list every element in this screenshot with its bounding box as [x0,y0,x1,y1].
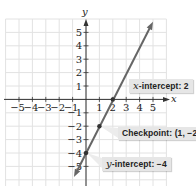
x-intercept-text: -intercept: 2 [139,81,189,91]
x-tick-label: 4 [136,102,142,113]
y-tick-label: 1 [76,81,82,92]
x-intercept-point [111,97,115,101]
y-tick-label: 4 [76,40,82,51]
y-tick-label: −1 [67,107,82,118]
x-tick-label: 3 [123,102,129,113]
y-tick-label: −2 [67,121,82,132]
x-intercept-label: x-intercept: 2 [129,79,193,93]
y-intercept-point [84,151,88,155]
y-axis-arrow-icon [84,19,89,26]
x-axis-label: x [171,93,177,104]
x-tick-label: 5 [150,102,156,113]
y-intercept-text: -intercept: −4 [112,159,167,169]
checkpoint-label: Checkpoint: (1, −2) [118,127,196,140]
y-tick-label: 5 [76,27,82,38]
checkpoint-pointer [100,126,118,138]
y-tick-label: −4 [67,148,82,159]
checkpoint-point [97,124,101,128]
checkpoint-text: Checkpoint: (1, −2) [122,128,196,138]
y-tick-label: −3 [67,134,82,145]
y-axis-label: y [81,6,88,17]
y-tick-label: 3 [76,54,82,65]
x-tick-label: 1 [96,102,102,113]
line-arrow-up-icon [147,22,153,30]
y-tick-label: 2 [76,67,82,78]
y-intercept-label: y-intercept: −4 [102,157,171,171]
